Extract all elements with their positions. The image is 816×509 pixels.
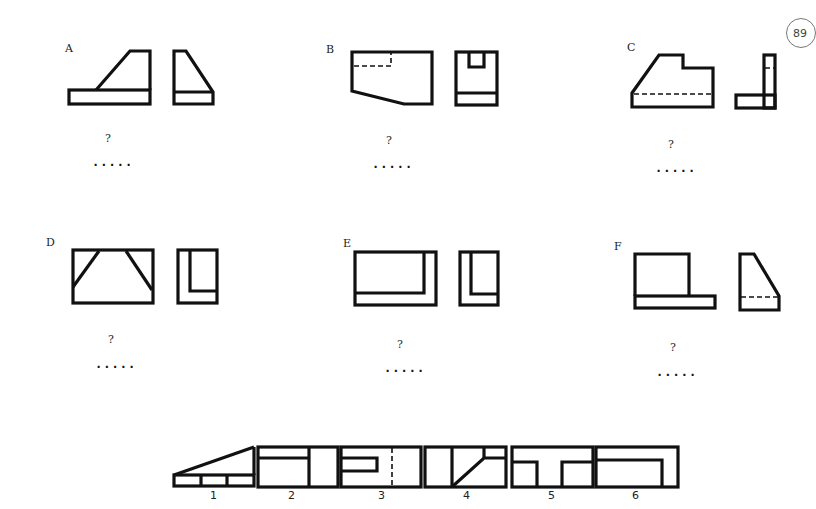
problem-f-side-view bbox=[740, 254, 779, 310]
problem-c-label: C bbox=[627, 41, 635, 54]
problem-b-answer-blank[interactable]: ..... bbox=[372, 157, 413, 171]
problem-e-question: ? bbox=[397, 338, 403, 351]
problem-f-question: ? bbox=[670, 341, 676, 354]
problem-b-side-view bbox=[456, 52, 497, 105]
problem-a-answer-blank[interactable]: ..... bbox=[92, 155, 133, 169]
option-5-number: 5 bbox=[548, 489, 555, 502]
problem-d-question: ? bbox=[108, 333, 114, 346]
problem-c-side-view bbox=[736, 55, 775, 108]
option-4-shape bbox=[425, 447, 506, 487]
option-1-number: 1 bbox=[210, 489, 217, 502]
problem-a-label: A bbox=[65, 42, 73, 55]
option-4-number: 4 bbox=[463, 489, 470, 502]
problem-a-question: ? bbox=[105, 132, 111, 145]
problem-d-label: D bbox=[46, 236, 55, 249]
problem-c-front-view bbox=[632, 55, 713, 107]
problem-a-front-view bbox=[69, 51, 150, 104]
option-2-shape bbox=[258, 447, 338, 487]
problem-f-label: F bbox=[614, 240, 622, 253]
problem-b-label: B bbox=[326, 43, 334, 56]
problem-f-answer-blank[interactable]: ..... bbox=[656, 365, 697, 379]
problem-f-front-view bbox=[635, 254, 715, 308]
problem-e-answer-blank[interactable]: ..... bbox=[384, 361, 425, 375]
problem-c-answer-blank[interactable]: ..... bbox=[655, 161, 696, 175]
option-1-shape bbox=[174, 447, 254, 486]
option-2-number: 2 bbox=[288, 489, 295, 502]
problem-a-side-view bbox=[174, 51, 213, 104]
problem-b-front-view bbox=[352, 52, 432, 104]
problem-e-side-view bbox=[460, 252, 498, 305]
problem-d-front-view bbox=[73, 250, 153, 303]
option-3-number: 3 bbox=[378, 489, 385, 502]
problem-c-question: ? bbox=[668, 138, 674, 151]
option-5-shape bbox=[512, 447, 593, 487]
problem-e-label: E bbox=[343, 237, 351, 250]
problem-d-answer-blank[interactable]: ..... bbox=[95, 357, 136, 371]
option-6-number: 6 bbox=[632, 489, 639, 502]
problem-d-side-view bbox=[178, 250, 217, 303]
problem-e-front-view bbox=[355, 252, 436, 305]
option-3-shape bbox=[341, 447, 421, 487]
problem-b-question: ? bbox=[386, 134, 392, 147]
option-6-shape bbox=[596, 447, 678, 487]
